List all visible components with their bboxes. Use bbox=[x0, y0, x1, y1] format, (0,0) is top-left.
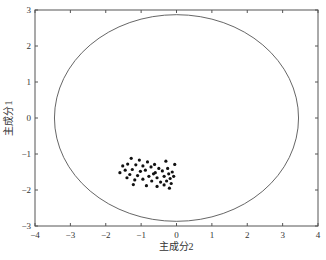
data-point bbox=[170, 182, 173, 185]
data-point bbox=[163, 175, 166, 178]
x-tick-label: 4 bbox=[316, 230, 321, 240]
data-point bbox=[133, 178, 136, 181]
x-tick-label: −4 bbox=[30, 230, 40, 240]
data-points bbox=[118, 157, 176, 190]
data-point bbox=[146, 160, 149, 163]
x-tick-label: 2 bbox=[245, 230, 250, 240]
data-point bbox=[165, 179, 168, 182]
data-point bbox=[121, 164, 124, 167]
x-axis-title: 主成分2 bbox=[159, 241, 194, 252]
data-point bbox=[144, 169, 147, 172]
data-point bbox=[168, 187, 171, 190]
boundary-ellipse bbox=[54, 15, 298, 222]
data-point bbox=[118, 171, 121, 174]
x-tick-label: −3 bbox=[66, 230, 76, 240]
data-point bbox=[169, 177, 172, 180]
data-point bbox=[128, 173, 131, 176]
x-tick-label: 1 bbox=[210, 230, 215, 240]
data-point bbox=[164, 160, 167, 163]
data-point bbox=[149, 165, 152, 168]
x-tick-label: 3 bbox=[280, 230, 285, 240]
data-point bbox=[136, 174, 139, 177]
data-point bbox=[132, 183, 135, 186]
data-point bbox=[153, 163, 156, 166]
y-tick-label: 2 bbox=[27, 41, 32, 51]
data-point bbox=[155, 185, 158, 188]
data-point bbox=[126, 162, 129, 165]
x-tick-label: −2 bbox=[101, 230, 111, 240]
y-axis-title: 主成分1 bbox=[3, 101, 14, 136]
data-point bbox=[138, 159, 141, 162]
data-point bbox=[145, 184, 148, 187]
data-point bbox=[172, 175, 175, 178]
data-point bbox=[166, 167, 169, 170]
data-point bbox=[139, 170, 142, 173]
axes-frame bbox=[35, 10, 318, 226]
data-point bbox=[167, 172, 170, 175]
data-point bbox=[157, 167, 160, 170]
data-point bbox=[161, 169, 164, 172]
y-tick-label: 1 bbox=[27, 77, 32, 87]
data-point bbox=[134, 163, 137, 166]
data-point bbox=[150, 179, 153, 182]
data-point bbox=[124, 169, 127, 172]
data-point bbox=[171, 170, 174, 173]
data-point bbox=[163, 183, 166, 186]
data-point bbox=[159, 180, 162, 183]
y-tick-label: −1 bbox=[21, 149, 31, 159]
confidence-ellipse bbox=[54, 15, 298, 222]
data-point bbox=[131, 168, 134, 171]
data-point bbox=[141, 178, 144, 181]
data-point bbox=[152, 172, 155, 175]
y-tick-label: −3 bbox=[21, 221, 31, 231]
data-point bbox=[130, 157, 133, 160]
x-tick-label: −1 bbox=[136, 230, 146, 240]
y-tick-label: 3 bbox=[27, 5, 32, 15]
data-point bbox=[147, 175, 150, 178]
data-point bbox=[141, 164, 144, 167]
plot-area-border bbox=[35, 10, 318, 226]
data-point bbox=[125, 176, 128, 179]
y-tick-label: 0 bbox=[27, 113, 32, 123]
data-point bbox=[173, 163, 176, 166]
scatter-chart: −4−3−2−101234−3−2−10123 主成分2 主成分1 bbox=[0, 0, 326, 260]
data-point bbox=[155, 176, 158, 179]
axis-ticks: −4−3−2−101234−3−2−10123 bbox=[21, 5, 320, 240]
y-tick-label: −2 bbox=[21, 185, 31, 195]
x-tick-label: 0 bbox=[174, 230, 179, 240]
